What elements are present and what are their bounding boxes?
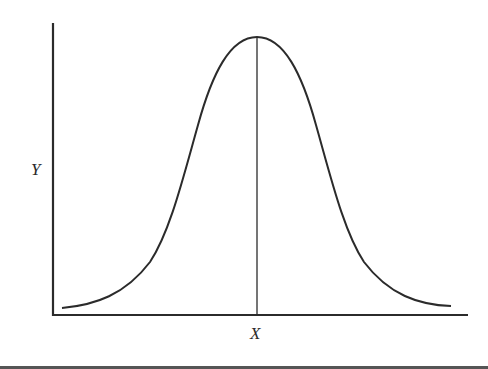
normal-curve-figure: Y X bbox=[0, 0, 488, 369]
x-axis-label: X bbox=[250, 325, 260, 342]
plot-area bbox=[0, 0, 488, 369]
y-axis-label: Y bbox=[31, 161, 40, 178]
